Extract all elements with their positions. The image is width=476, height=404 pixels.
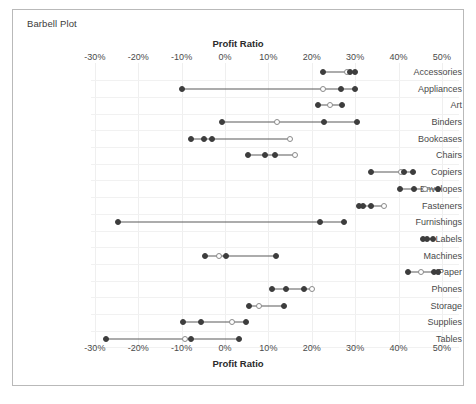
plot-area: AccessoriesAppliancesArtBindersBookcases… xyxy=(13,10,465,387)
barbell-connector[interactable] xyxy=(182,88,356,89)
data-point-marker[interactable] xyxy=(411,186,417,192)
data-point-marker[interactable] xyxy=(339,102,345,108)
data-point-marker[interactable] xyxy=(430,236,436,242)
row-separator xyxy=(91,180,459,181)
data-point-marker[interactable] xyxy=(320,86,326,92)
x-tick-label: 40% xyxy=(389,343,407,353)
barbell-connector[interactable] xyxy=(183,322,246,323)
row-separator xyxy=(91,314,459,315)
data-point-marker[interactable] xyxy=(368,203,374,209)
category-label: Machines xyxy=(387,251,465,261)
data-point-marker[interactable] xyxy=(354,119,360,125)
category-label: Phones xyxy=(387,284,465,294)
x-tick-label: 20% xyxy=(303,343,321,353)
data-point-marker[interactable] xyxy=(338,86,344,92)
data-point-marker[interactable] xyxy=(223,253,229,259)
row-separator xyxy=(91,331,459,332)
data-point-marker[interactable] xyxy=(262,152,268,158)
data-point-marker[interactable] xyxy=(368,169,374,175)
grid-line xyxy=(225,63,226,348)
data-point-marker[interactable] xyxy=(281,303,287,309)
row-separator xyxy=(91,164,459,165)
category-label: Chairs xyxy=(387,150,465,160)
grid-line xyxy=(95,63,96,348)
data-point-marker[interactable] xyxy=(309,286,315,292)
row-separator xyxy=(91,297,459,298)
data-point-marker[interactable] xyxy=(229,319,235,325)
data-point-marker[interactable] xyxy=(209,136,215,142)
data-point-marker[interactable] xyxy=(321,119,327,125)
x-axis-ticks-bottom: -30%-20%-10%0%10%20%30%40%50% xyxy=(13,343,463,356)
data-point-marker[interactable] xyxy=(188,336,194,342)
row-separator xyxy=(91,247,459,248)
row-separator xyxy=(91,130,459,131)
data-point-marker[interactable] xyxy=(352,86,358,92)
chart-frame: Barbell Plot Profit Ratio -30%-20%-10%0%… xyxy=(12,9,464,386)
barbell-connector[interactable] xyxy=(118,222,344,223)
row-separator xyxy=(91,214,459,215)
data-point-marker[interactable] xyxy=(201,136,207,142)
data-point-marker[interactable] xyxy=(198,319,204,325)
data-point-marker[interactable] xyxy=(315,102,321,108)
category-label: Furnishings xyxy=(387,217,465,227)
data-point-marker[interactable] xyxy=(180,319,186,325)
data-point-marker[interactable] xyxy=(292,152,298,158)
row-separator xyxy=(91,147,459,148)
data-point-marker[interactable] xyxy=(115,219,121,225)
data-point-marker[interactable] xyxy=(381,203,387,209)
data-point-marker[interactable] xyxy=(405,269,411,275)
category-label: Accessories xyxy=(387,67,465,77)
category-label: Supplies xyxy=(387,317,465,327)
data-point-marker[interactable] xyxy=(435,269,441,275)
x-tick-label: 10% xyxy=(259,343,277,353)
data-point-marker[interactable] xyxy=(188,136,194,142)
data-point-marker[interactable] xyxy=(243,319,249,325)
data-point-marker[interactable] xyxy=(422,186,428,192)
category-label: Fasteners xyxy=(387,201,465,211)
row-separator xyxy=(91,231,459,232)
data-point-marker[interactable] xyxy=(287,136,293,142)
data-point-marker[interactable] xyxy=(320,69,326,75)
category-label: Binders xyxy=(387,117,465,127)
data-point-marker[interactable] xyxy=(301,286,307,292)
data-point-marker[interactable] xyxy=(435,186,441,192)
data-point-marker[interactable] xyxy=(103,336,109,342)
barbell-connector[interactable] xyxy=(106,339,239,340)
x-tick-label: -10% xyxy=(171,343,192,353)
data-point-marker[interactable] xyxy=(272,152,278,158)
data-point-marker[interactable] xyxy=(360,203,366,209)
x-tick-label: 50% xyxy=(433,343,451,353)
data-point-marker[interactable] xyxy=(219,119,225,125)
data-point-marker[interactable] xyxy=(352,69,358,75)
x-tick-label: 30% xyxy=(346,343,364,353)
data-point-marker[interactable] xyxy=(410,169,416,175)
data-point-marker[interactable] xyxy=(236,336,242,342)
grid-line xyxy=(138,63,139,348)
data-point-marker[interactable] xyxy=(274,119,280,125)
data-point-marker[interactable] xyxy=(418,269,424,275)
data-point-marker[interactable] xyxy=(401,169,407,175)
barbell-connector[interactable] xyxy=(222,122,357,123)
data-point-marker[interactable] xyxy=(246,303,252,309)
barbell-connector[interactable] xyxy=(400,188,438,189)
category-label: Art xyxy=(387,100,465,110)
row-separator xyxy=(91,197,459,198)
data-point-marker[interactable] xyxy=(283,286,289,292)
data-point-marker[interactable] xyxy=(179,86,185,92)
data-point-marker[interactable] xyxy=(216,253,222,259)
barbell-connector[interactable] xyxy=(249,305,284,306)
category-label: Storage xyxy=(387,301,465,311)
data-point-marker[interactable] xyxy=(273,253,279,259)
data-point-marker[interactable] xyxy=(327,102,333,108)
data-point-marker[interactable] xyxy=(397,186,403,192)
data-point-marker[interactable] xyxy=(269,286,275,292)
grid-line xyxy=(312,63,313,348)
row-separator xyxy=(91,264,459,265)
x-axis-title-bottom: Profit Ratio xyxy=(13,358,463,369)
data-point-marker[interactable] xyxy=(202,253,208,259)
row-separator xyxy=(91,97,459,98)
data-point-marker[interactable] xyxy=(245,152,251,158)
data-point-marker[interactable] xyxy=(256,303,262,309)
data-point-marker[interactable] xyxy=(317,219,323,225)
data-point-marker[interactable] xyxy=(341,219,347,225)
